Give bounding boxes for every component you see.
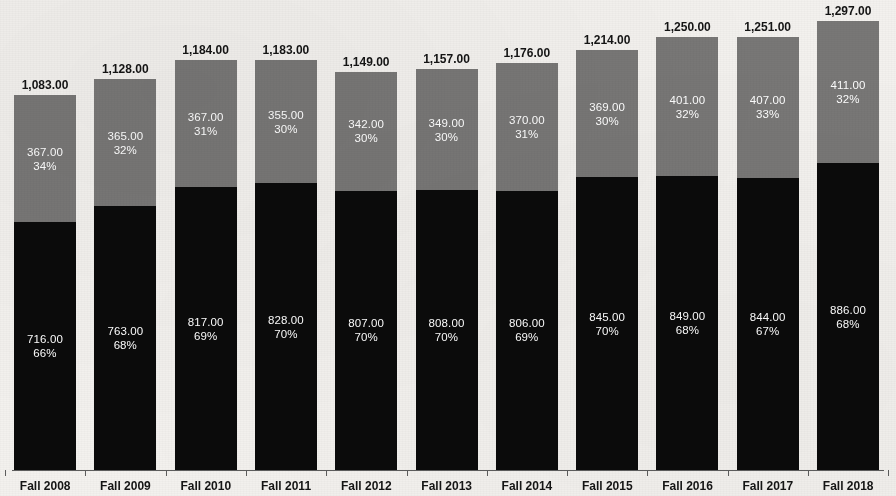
x-axis-tick (5, 470, 6, 476)
bar-label-top-value: 401.00 (670, 94, 706, 106)
bar-label-bottom: 807.0070% (335, 316, 397, 344)
bar-label-bottom-percent: 70% (576, 324, 638, 338)
x-axis-category-label: Fall 2018 (808, 478, 888, 494)
x-axis-tick (326, 470, 327, 476)
bar-label-top: 407.0033% (737, 93, 799, 121)
bar-group[interactable]: 845.0070%369.0030%1,214.00 (576, 50, 638, 470)
x-axis-tick (407, 470, 408, 476)
bar-label-top-percent: 34% (14, 159, 76, 173)
bar-label-bottom-percent: 68% (94, 338, 156, 352)
bar-label-top: 411.0032% (817, 78, 879, 106)
bar-label-top: 367.0034% (14, 145, 76, 173)
bar-label-top-percent: 32% (94, 143, 156, 157)
bar-total-label: 1,128.00 (84, 62, 166, 76)
x-axis-tick (808, 470, 809, 476)
bar-label-top-percent: 30% (335, 131, 397, 145)
bar-label-bottom-percent: 70% (416, 330, 478, 344)
x-axis-category-label: Fall 2010 (166, 478, 246, 494)
bar-label-top: 367.0031% (175, 110, 237, 138)
bar-group[interactable]: 806.0069%370.0031%1,176.00 (496, 63, 558, 470)
x-axis-category-label: Fall 2013 (407, 478, 487, 494)
bar-label-bottom: 886.0068% (817, 303, 879, 331)
x-axis-tick (487, 470, 488, 476)
bar-label-top-value: 349.00 (429, 117, 465, 129)
bar-total-label: 1,250.00 (646, 20, 728, 34)
x-axis-category-label: Fall 2014 (487, 478, 567, 494)
bar-total-label: 1,184.00 (165, 43, 247, 57)
bar-label-top: 401.0032% (656, 93, 718, 121)
bar-label-bottom-percent: 68% (656, 323, 718, 337)
plot-area: 716.0066%367.0034%1,083.00763.0068%365.0… (0, 0, 896, 496)
bar-group[interactable]: 807.0070%342.0030%1,149.00 (335, 72, 397, 470)
x-axis-category-label: Fall 2016 (647, 478, 727, 494)
bar-group[interactable]: 849.0068%401.0032%1,250.00 (656, 37, 718, 470)
x-axis-tick (85, 470, 86, 476)
bar-label-bottom-value: 844.00 (750, 311, 786, 323)
bar-label-top-value: 369.00 (589, 101, 625, 113)
bar-label-top: 369.0030% (576, 100, 638, 128)
bar-label-bottom-percent: 70% (255, 327, 317, 341)
bar-label-top-percent: 30% (255, 122, 317, 136)
bar-label-top-value: 370.00 (509, 114, 545, 126)
bar-label-bottom: 716.0066% (14, 332, 76, 360)
bar-label-bottom-value: 716.00 (27, 333, 63, 345)
bar-group[interactable]: 817.0069%367.0031%1,184.00 (175, 60, 237, 470)
bar-label-bottom-percent: 69% (175, 329, 237, 343)
bar-label-bottom-value: 806.00 (509, 317, 545, 329)
x-axis-category-label: Fall 2008 (5, 478, 85, 494)
bar-label-top-value: 342.00 (348, 118, 384, 130)
stacked-bar-chart: 716.0066%367.0034%1,083.00763.0068%365.0… (0, 0, 896, 496)
bar-label-bottom-value: 808.00 (429, 317, 465, 329)
bar-group[interactable]: 828.0070%355.0030%1,183.00 (255, 60, 317, 470)
bar-label-bottom-value: 845.00 (589, 311, 625, 323)
bar-label-top: 355.0030% (255, 108, 317, 136)
bar-group[interactable]: 886.0068%411.0032%1,297.00 (817, 21, 879, 470)
bar-total-label: 1,157.00 (406, 52, 488, 66)
x-axis-category-label: Fall 2011 (246, 478, 326, 494)
bar-label-top: 370.0031% (496, 113, 558, 141)
bar-total-label: 1,251.00 (727, 20, 809, 34)
bar-label-top-value: 355.00 (268, 109, 304, 121)
bar-label-top-value: 367.00 (188, 111, 224, 123)
bar-label-bottom-percent: 67% (737, 324, 799, 338)
bar-label-bottom: 844.0067% (737, 310, 799, 338)
bar-label-bottom-percent: 66% (14, 346, 76, 360)
bar-group[interactable]: 808.0070%349.0030%1,157.00 (416, 69, 478, 470)
bar-label-top-value: 367.00 (27, 146, 63, 158)
x-axis-tick (728, 470, 729, 476)
x-axis-category-label: Fall 2012 (326, 478, 406, 494)
bar-total-label: 1,176.00 (486, 46, 568, 60)
bar-group[interactable]: 716.0066%367.0034%1,083.00 (14, 95, 76, 470)
x-axis-tick (246, 470, 247, 476)
bar-label-top: 365.0032% (94, 129, 156, 157)
bar-label-top: 349.0030% (416, 116, 478, 144)
bar-label-bottom: 817.0069% (175, 315, 237, 343)
bar-group[interactable]: 844.0067%407.0033%1,251.00 (737, 37, 799, 470)
bar-label-bottom: 828.0070% (255, 313, 317, 341)
bar-label-bottom-value: 817.00 (188, 316, 224, 328)
bar-group[interactable]: 763.0068%365.0032%1,128.00 (94, 79, 156, 470)
bar-total-label: 1,297.00 (807, 4, 889, 18)
bar-label-top-percent: 30% (576, 114, 638, 128)
x-axis-tick (567, 470, 568, 476)
bar-label-bottom-value: 763.00 (107, 325, 143, 337)
x-axis-tick (647, 470, 648, 476)
bar-label-bottom: 808.0070% (416, 316, 478, 344)
bar-label-bottom-percent: 69% (496, 330, 558, 344)
bar-label-top-percent: 33% (737, 107, 799, 121)
bar-label-top-percent: 31% (175, 124, 237, 138)
bar-label-bottom-value: 828.00 (268, 314, 304, 326)
x-axis-line (12, 470, 884, 471)
bar-total-label: 1,183.00 (245, 43, 327, 57)
bar-total-label: 1,149.00 (325, 55, 407, 69)
bar-total-label: 1,214.00 (566, 33, 648, 47)
bar-label-top-value: 365.00 (107, 130, 143, 142)
bar-label-top-percent: 30% (416, 130, 478, 144)
bar-label-top-percent: 32% (656, 107, 718, 121)
bar-label-top-value: 411.00 (831, 79, 866, 91)
bar-label-bottom-percent: 68% (817, 317, 879, 331)
bar-label-top-value: 407.00 (750, 94, 786, 106)
bar-label-bottom-value: 849.00 (670, 310, 706, 322)
x-axis-category-label: Fall 2009 (85, 478, 165, 494)
bar-label-bottom-percent: 70% (335, 330, 397, 344)
